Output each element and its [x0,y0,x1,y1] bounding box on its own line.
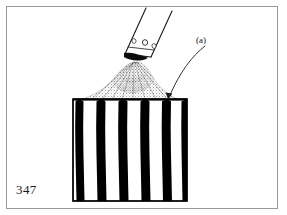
block-stripe [140,100,150,201]
block-stripe [118,100,128,201]
block-stripe [96,100,106,201]
callout-leader-line [166,46,205,100]
spray-nozzle [124,8,172,61]
callout-label-a: (a) [196,36,206,45]
block-stripe [162,100,172,201]
figure-illustration [0,0,287,215]
block-stripe [75,100,84,201]
page-number: 347 [16,183,37,196]
figure-page: (a) 347 [0,0,287,215]
nozzle-hole-2 [142,39,148,46]
spray-cone [70,55,190,105]
striped-block [73,99,187,201]
nozzle-tip-shadow [124,53,148,61]
nozzle-hole-1 [132,38,137,44]
nozzle-hole-3 [152,43,157,49]
